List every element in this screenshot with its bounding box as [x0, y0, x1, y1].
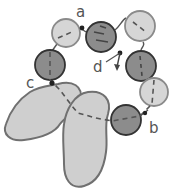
point-a-dot [80, 26, 85, 31]
connector [141, 42, 144, 51]
point-c-dot [49, 80, 54, 85]
label-a: a [76, 3, 85, 21]
label-b: b [149, 119, 159, 137]
bead-light-top-left [52, 19, 80, 47]
bead-chain-diagram: a b c d [0, 0, 180, 194]
bead-light-top-right [125, 11, 155, 41]
arrow-head-icon [114, 64, 120, 71]
blob-right [63, 92, 109, 187]
point-b-dot [143, 111, 147, 115]
label-c: c [26, 74, 34, 92]
label-d: d [93, 58, 103, 76]
